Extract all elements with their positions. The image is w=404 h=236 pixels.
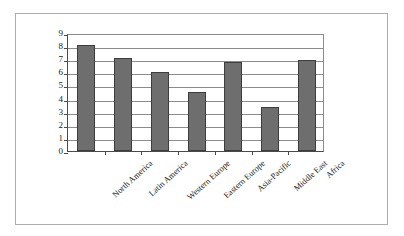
y-axis-tick-mark [64,61,68,62]
y-axis-tick-mark [64,87,68,88]
y-axis-tick-label: 5 [45,81,63,90]
y-axis-tick-label: 3 [45,108,63,117]
x-axis-tick-label: Middle East [292,158,329,193]
gridline [68,61,323,62]
chart-frame: 0123456789 North AmericaLatin AmericaWes… [15,13,388,225]
y-axis-tick-label: 6 [45,68,63,77]
x-axis-tick-label: Africa [323,158,346,180]
plot-area [67,34,324,152]
y-axis-tick-label: 9 [45,29,63,38]
gridline [68,74,323,75]
y-axis-tick-mark [64,35,68,36]
y-axis-tick-mark [64,114,68,115]
y-axis-tick-label: 0 [45,147,63,156]
y-axis-tick-mark [64,127,68,128]
gridline [68,87,323,88]
gridline [68,48,323,49]
bar [151,72,169,151]
x-axis-tick-labels: North AmericaLatin AmericaWestern Europe… [67,152,324,222]
figure: 0123456789 North AmericaLatin AmericaWes… [0,0,404,236]
y-axis-tick-label: 7 [45,55,63,64]
y-axis-tick-label: 1 [45,134,63,143]
bar [77,45,95,151]
bar [114,58,132,151]
y-axis-tick-mark [64,74,68,75]
bar [224,62,242,151]
y-axis-tick-mark [64,140,68,141]
y-axis-tick-mark [64,48,68,49]
bar [188,92,206,151]
y-axis-tick-label: 4 [45,95,63,104]
bar [261,107,279,151]
bar [298,60,316,151]
y-axis-tick-mark [64,101,68,102]
y-axis-tick-label: 2 [45,121,63,130]
y-axis-tick-labels: 0123456789 [45,34,63,152]
y-axis-tick-label: 8 [45,42,63,51]
